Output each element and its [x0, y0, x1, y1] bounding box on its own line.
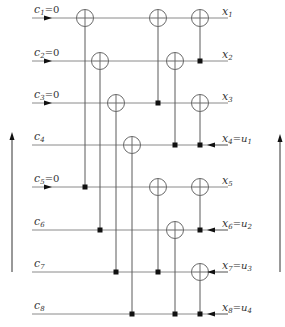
xor-target-icon [108, 95, 125, 112]
inbound-arrow-icon [207, 228, 215, 233]
control-dot-icon [198, 59, 203, 64]
input-arrow-icon [44, 185, 52, 190]
diagram-canvas: c1=0c2=0c3=0c4c5=0c6c7c8x1x2x3x4=u1x5x6=… [0, 0, 285, 327]
cnot-gate [192, 95, 209, 148]
output-label-x3: x3 [222, 90, 233, 104]
cnot-gate [150, 10, 167, 106]
control-dot-icon [173, 143, 178, 148]
output-label-x1: x1 [222, 5, 233, 19]
cnot-gate [192, 10, 209, 64]
xor-network-diagram: c1=0c2=0c3=0c4c5=0c6c7c8x1x2x3x4=u1x5x6=… [0, 0, 285, 327]
output-label-x6: x6=u2 [222, 217, 253, 231]
control-dot-icon [198, 228, 203, 233]
up-arrow-icon [10, 132, 15, 140]
input-label-c6: c6 [34, 215, 45, 229]
input-label-c7: c7 [34, 257, 45, 271]
output-label-x5: x5 [222, 174, 233, 188]
xor-target-icon [92, 53, 109, 70]
cnot-gate [77, 10, 94, 190]
output-label-x7: x7=u3 [222, 259, 253, 273]
control-dot-icon [98, 228, 103, 233]
xor-target-icon [124, 137, 141, 154]
cnot-gate [167, 222, 184, 317]
control-dot-icon [83, 185, 88, 190]
output-label-x4: x4=u1 [222, 132, 252, 146]
control-dot-icon [114, 270, 119, 275]
xor-target-icon [192, 264, 209, 281]
input-label-c8: c8 [34, 299, 45, 313]
cnot-gate [150, 179, 167, 275]
control-dot-icon [198, 143, 203, 148]
input-label-c1: c1=0 [34, 3, 59, 17]
up-arrow-icon [278, 134, 283, 142]
input-arrow-icon [44, 16, 52, 21]
xor-target-icon [192, 179, 209, 196]
xor-target-icon [150, 10, 167, 27]
xor-target-icon [167, 222, 184, 239]
control-dot-icon [156, 101, 161, 106]
input-label-c3: c3=0 [34, 88, 59, 102]
output-label-x2: x2 [222, 48, 233, 62]
control-dot-icon [198, 312, 203, 317]
input-arrow-icon [44, 59, 52, 64]
input-arrow-icon [44, 101, 52, 106]
line-labels: c1=0c2=0c3=0c4c5=0c6c7c8x1x2x3x4=u1x5x6=… [34, 3, 253, 315]
xor-target-icon [192, 95, 209, 112]
cnot-gate [124, 137, 141, 317]
xor-gates [77, 10, 209, 317]
control-dot-icon [156, 270, 161, 275]
cnot-gate [108, 95, 125, 275]
control-dot-icon [130, 312, 135, 317]
xor-target-icon [150, 179, 167, 196]
cnot-gate [92, 53, 109, 233]
input-label-c4: c4 [34, 130, 45, 144]
cnot-gate [167, 53, 184, 148]
output-label-x8: x8=u4 [222, 301, 252, 315]
control-dot-icon [173, 312, 178, 317]
cnot-gate [192, 264, 209, 317]
inbound-arrow-icon [207, 143, 215, 148]
input-label-c2: c2=0 [34, 46, 59, 60]
cnot-gate [192, 179, 209, 233]
xor-target-icon [167, 53, 184, 70]
xor-target-icon [192, 10, 209, 27]
xor-target-icon [77, 10, 94, 27]
inbound-arrow-icon [207, 312, 215, 317]
input-label-c5: c5=0 [34, 172, 59, 186]
